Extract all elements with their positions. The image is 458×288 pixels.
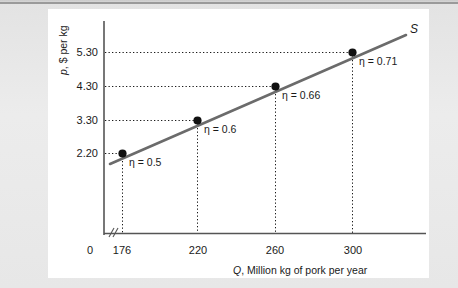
x-tick-label-176: 176 <box>113 244 131 256</box>
x-tick-label-220: 220 <box>189 244 207 256</box>
y-tick-label-530: 5.30 <box>77 46 98 58</box>
y-axis-title: p, $ per kg <box>57 25 69 76</box>
data-point-260 <box>271 82 279 90</box>
figure-container: 5.30 4.30 3.30 2.20 η = 0.5 η = 0.6 <box>0 0 458 288</box>
curve-label-s: S <box>410 22 418 36</box>
top-divider-rule <box>0 2 458 4</box>
y-tick-label-430: 4.30 <box>77 80 98 92</box>
data-point-176 <box>118 149 126 157</box>
x-tick-label-260: 260 <box>266 244 284 256</box>
x-tick-label-300: 300 <box>344 244 362 256</box>
annotation-eta-071: η = 0.71 <box>359 55 397 67</box>
data-point-220 <box>193 116 201 124</box>
x-axis-break-icon <box>109 228 118 237</box>
chart-panel: 5.30 4.30 3.30 2.20 η = 0.5 η = 0.6 <box>48 9 429 278</box>
data-point-300 <box>348 48 356 56</box>
x-origin-label: 0 <box>87 244 93 256</box>
x-axis-title-rest: , Million kg of pork per year <box>241 264 368 276</box>
annotation-eta-060: η = 0.6 <box>204 123 237 135</box>
annotation-eta-050: η = 0.5 <box>129 156 162 168</box>
y-tick-label-220: 2.20 <box>77 147 98 159</box>
x-axis-title: Q, Million kg of pork per year <box>233 264 368 276</box>
x-axis-title-symbol: Q <box>233 264 241 276</box>
supply-curve-chart: 5.30 4.30 3.30 2.20 η = 0.5 η = 0.6 <box>48 9 429 278</box>
annotation-eta-066: η = 0.66 <box>282 89 320 101</box>
y-tick-label-330: 3.30 <box>77 114 98 126</box>
y-axis-title-rest: , $ per kg <box>57 25 69 69</box>
